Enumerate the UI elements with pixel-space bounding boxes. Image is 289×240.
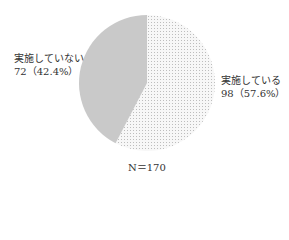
label-not-implemented-value: 72（42.4%）	[14, 65, 76, 78]
label-implemented-name: 実施している	[221, 74, 286, 87]
sample-size-label: N＝170	[128, 161, 166, 174]
label-not-implemented-name: 実施していない	[14, 52, 76, 65]
label-implemented: 実施している 98（57.6%）	[221, 74, 286, 100]
label-not-implemented: 実施していない 72（42.4%）	[14, 52, 76, 78]
label-implemented-value: 98（57.6%）	[221, 87, 286, 100]
